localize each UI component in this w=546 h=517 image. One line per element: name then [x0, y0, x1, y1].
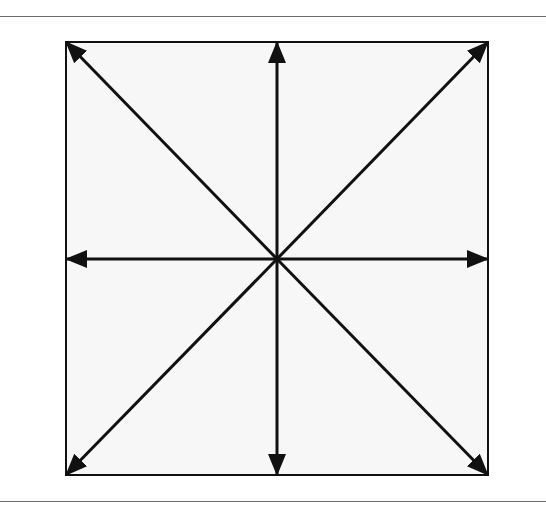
- radial-arrows-diagram: [0, 0, 546, 517]
